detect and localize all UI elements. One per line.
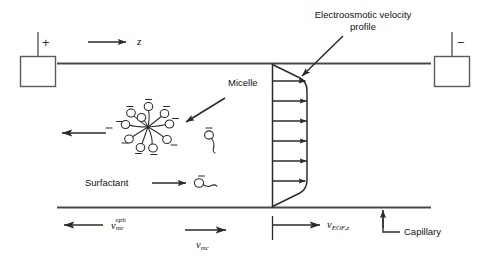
- v-eof-z-measure: [273, 216, 321, 240]
- micelle-label: Micelle: [228, 77, 258, 89]
- profile-envelope: [273, 65, 308, 207]
- micelle-head: [125, 135, 134, 143]
- eof-profile-label: Electroosmotic velocity profile: [298, 9, 428, 33]
- v-mc-label: vmc: [196, 239, 209, 252]
- electrode-right-body: [435, 57, 470, 87]
- eof-profile-label-line2: profile: [350, 21, 376, 32]
- diagram-canvas: Electroosmotic velocity profile Micelle …: [0, 0, 486, 267]
- micelle-head: [137, 114, 146, 122]
- electrode-left-polarity: +: [42, 36, 50, 49]
- eof-profile-label-line1: Electroosmotic velocity: [315, 9, 412, 20]
- electrode-left-body: [21, 57, 56, 87]
- profile-arrows: [273, 81, 307, 181]
- micelle: [106, 100, 179, 155]
- micelle-head: [149, 144, 158, 152]
- z-axis-label: z: [137, 35, 141, 47]
- micelle-head: [160, 110, 169, 118]
- surfactant-head: [205, 131, 214, 139]
- micelle-head: [163, 136, 172, 144]
- velocity-profile: [273, 64, 308, 208]
- micelle-leader-arrow: [186, 98, 225, 122]
- surfactant-key-head: [194, 179, 203, 187]
- surfactant-label: Surfactant: [85, 177, 128, 189]
- micelle-head: [144, 103, 153, 111]
- free-surfactant-molecule: [205, 128, 215, 153]
- capillary-leader: [383, 210, 400, 232]
- surfactant-key-tail: [203, 185, 217, 187]
- v-eof-z-subscript: EOF,z: [332, 224, 349, 232]
- surfactant-tail: [212, 138, 216, 153]
- eof-profile-leader-arrow: [302, 36, 343, 76]
- surfactant-key: [152, 176, 217, 187]
- micelle-head: [127, 109, 136, 117]
- v-mc-subscript: mc: [201, 244, 209, 252]
- v-eof-z-label: vEOF,z: [327, 219, 349, 232]
- micelle-head: [136, 144, 145, 152]
- electrode-left: [21, 32, 56, 87]
- micelle-head: [165, 120, 174, 128]
- capillary-label: Capillary: [404, 226, 441, 238]
- v-mc-eph-label: vephmc: [111, 217, 126, 232]
- electrode-right-polarity: −: [457, 36, 465, 49]
- v-mc-eph-subscript: mc: [116, 225, 126, 233]
